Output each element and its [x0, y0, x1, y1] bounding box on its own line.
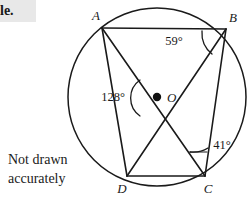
angle-label-41: 41° — [213, 138, 231, 152]
diagram-page: le. A B C D O 59° 128° 41° Not drawn acc… — [0, 0, 252, 198]
vertex-label-d: D — [116, 181, 127, 196]
note-line-2: accurately — [8, 169, 104, 188]
chord-ab — [102, 28, 226, 29]
note-line-1: Not drawn — [8, 150, 104, 169]
center-label-o: O — [167, 90, 177, 105]
angle-arc-b — [202, 31, 212, 54]
angle-label-59: 59° — [165, 34, 183, 48]
not-drawn-accurately-note: Not drawn accurately — [8, 150, 104, 188]
vertex-label-a: A — [91, 8, 100, 23]
angle-arc-o — [131, 80, 140, 116]
diagonal-bd — [127, 29, 226, 176]
vertex-label-c: C — [204, 181, 213, 196]
vertex-label-b: B — [229, 10, 237, 25]
center-point-o — [153, 93, 161, 101]
angle-label-128: 128° — [101, 90, 125, 104]
